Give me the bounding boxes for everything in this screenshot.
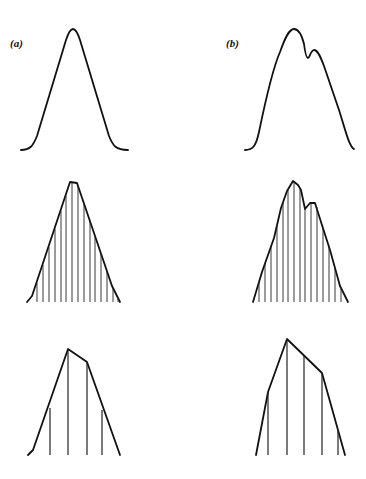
- strips-b-coarse: [256, 339, 345, 455]
- diagram-canvas: [0, 0, 366, 479]
- curve-a-continuous: [21, 29, 128, 150]
- strips-b-fine: [253, 181, 348, 302]
- curve-b-continuous: [245, 29, 354, 150]
- strips-a-coarse: [28, 349, 120, 455]
- strips-a-fine: [27, 182, 120, 302]
- figure: (a) (b): [0, 0, 366, 479]
